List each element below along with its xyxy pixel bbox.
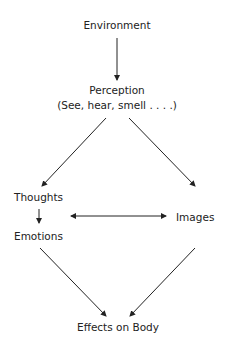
arrow-perception-images	[129, 118, 195, 186]
diagram-arrows	[0, 0, 225, 350]
node-environment: Environment	[83, 19, 150, 31]
arrow-emotions-effects	[40, 248, 106, 316]
node-emotions: Emotions	[14, 230, 63, 242]
arrow-perception-thoughts	[42, 118, 106, 186]
node-images: Images	[176, 211, 214, 223]
node-perception: Perception	[89, 84, 145, 96]
node-thoughts: Thoughts	[14, 191, 63, 203]
node-perception-subtitle: (See, hear, smell . . . .)	[57, 99, 177, 111]
arrow-images-effects	[130, 248, 195, 316]
node-effects-on-body: Effects on Body	[77, 321, 159, 333]
